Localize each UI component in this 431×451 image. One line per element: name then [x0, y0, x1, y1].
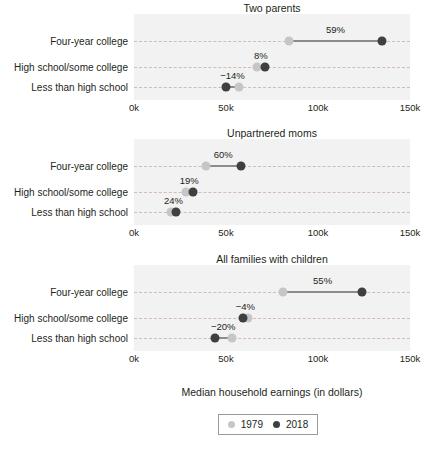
- 2018-dot[interactable]: [188, 188, 197, 197]
- category-label: High school/some college: [14, 313, 128, 324]
- connector-line: [289, 40, 383, 42]
- category-label: High school/some college: [14, 187, 128, 198]
- 1979-dot[interactable]: [227, 334, 236, 343]
- x-tick-label: 150k: [400, 353, 421, 364]
- percent-change-label: 24%: [164, 195, 183, 206]
- x-tick-label: 0k: [129, 353, 139, 364]
- x-tick-label: 0k: [129, 227, 139, 238]
- 1979-dot[interactable]: [279, 288, 288, 297]
- panel-title: Unpartnered moms: [134, 127, 410, 139]
- percent-change-label: 8%: [254, 50, 268, 61]
- 1979-dot[interactable]: [201, 162, 210, 171]
- 2018-dot[interactable]: [260, 63, 269, 72]
- x-tick-label: 100k: [308, 102, 329, 113]
- category-label: Four-year college: [50, 287, 128, 298]
- 2018-dot[interactable]: [358, 288, 367, 297]
- gridline: [134, 318, 410, 319]
- x-axis: 0k50k100k150k: [134, 102, 410, 116]
- 2018-dot[interactable]: [210, 334, 219, 343]
- percent-change-label: 19%: [180, 175, 199, 186]
- gridline: [134, 166, 410, 167]
- category-label: Less than high school: [31, 82, 128, 93]
- legend-swatch-icon: [273, 421, 280, 428]
- percent-change-label: −20%: [211, 321, 236, 332]
- plot-area: [134, 14, 410, 100]
- category-label: Four-year college: [50, 36, 128, 47]
- legend: 19792018: [218, 414, 318, 435]
- 2018-dot[interactable]: [172, 208, 181, 217]
- percent-change-label: −14%: [220, 70, 245, 81]
- plot-area: [134, 265, 410, 351]
- panel-title: All families with children: [134, 253, 410, 265]
- x-tick-label: 50k: [218, 227, 233, 238]
- percent-change-label: −4%: [236, 301, 255, 312]
- gridline: [134, 87, 410, 88]
- percent-change-label: 59%: [326, 24, 345, 35]
- 1979-dot[interactable]: [284, 37, 293, 46]
- legend-item[interactable]: 2018: [273, 419, 308, 430]
- x-axis-title: Median household earnings (in dollars): [134, 386, 410, 398]
- legend-swatch-icon: [228, 421, 235, 428]
- 2018-dot[interactable]: [238, 314, 247, 323]
- percent-change-label: 60%: [214, 149, 233, 160]
- x-tick-label: 0k: [129, 102, 139, 113]
- x-tick-label: 100k: [308, 227, 329, 238]
- category-label: Less than high school: [31, 333, 128, 344]
- gridline: [134, 67, 410, 68]
- x-axis: 0k50k100k150k: [134, 227, 410, 241]
- 2018-dot[interactable]: [236, 162, 245, 171]
- category-label: Four-year college: [50, 161, 128, 172]
- panel-title: Two parents: [134, 2, 410, 14]
- gridline: [134, 192, 410, 193]
- x-tick-label: 50k: [218, 102, 233, 113]
- category-label: Less than high school: [31, 207, 128, 218]
- connector-line: [283, 291, 362, 293]
- x-axis: 0k50k100k150k: [134, 353, 410, 367]
- percent-change-label: 55%: [313, 275, 332, 286]
- gridline: [134, 338, 410, 339]
- x-tick-label: 50k: [218, 353, 233, 364]
- gridline: [134, 292, 410, 293]
- x-tick-label: 100k: [308, 353, 329, 364]
- x-tick-label: 150k: [400, 102, 421, 113]
- 2018-dot[interactable]: [378, 37, 387, 46]
- category-label: High school/some college: [14, 62, 128, 73]
- legend-label: 2018: [286, 419, 308, 430]
- x-tick-label: 150k: [400, 227, 421, 238]
- 1979-dot[interactable]: [234, 83, 243, 92]
- legend-label: 1979: [241, 419, 263, 430]
- 2018-dot[interactable]: [222, 83, 231, 92]
- legend-item[interactable]: 1979: [228, 419, 263, 430]
